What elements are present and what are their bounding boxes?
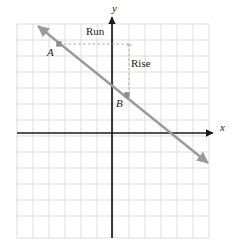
point-label-a: A xyxy=(47,47,54,58)
graph-canvas xyxy=(0,0,234,246)
grid-lines xyxy=(17,24,209,238)
coordinate-plane-figure: y x A B Run Rise xyxy=(0,0,234,246)
point-marker-b xyxy=(124,92,129,97)
rise-label: Rise xyxy=(131,58,151,69)
run-label: Run xyxy=(86,26,104,37)
axis-label-y: y xyxy=(112,3,117,14)
point-marker-a xyxy=(56,41,61,46)
point-label-b: B xyxy=(116,98,123,109)
axis-label-x: x xyxy=(220,122,225,133)
